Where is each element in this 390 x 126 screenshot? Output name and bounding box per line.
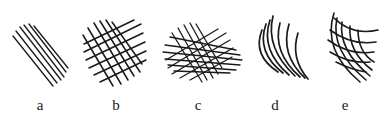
panel-b-label: b xyxy=(112,97,120,114)
panel-a-label: a xyxy=(37,97,44,114)
panel-d-label: d xyxy=(271,97,279,114)
panel-c-label: c xyxy=(195,97,202,114)
panel-e-label: e xyxy=(342,97,349,114)
panel-a-parallel-hatching xyxy=(13,24,68,86)
panel-e-curved-cross-hatching xyxy=(328,13,378,82)
panel-c-dense-hatching xyxy=(163,23,242,82)
panel-d-curved-hatching xyxy=(259,16,308,79)
panel-b-cross-hatching xyxy=(83,20,146,86)
hatching-figure: a b c d e xyxy=(0,0,390,126)
